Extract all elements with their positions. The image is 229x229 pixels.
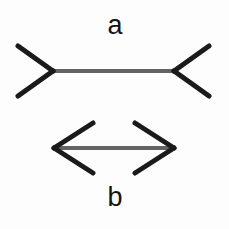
figure-b-fin-right-top xyxy=(135,123,174,148)
figure-a-fin-right-top xyxy=(174,46,209,71)
figure-b-fin-right-bottom xyxy=(135,148,174,173)
muller-lyer-figure: a b xyxy=(0,0,229,229)
figure-a-fin-right-bottom xyxy=(174,71,209,96)
figure-a-fin-left-top xyxy=(18,46,53,71)
figure-b-fin-left-top xyxy=(54,123,93,148)
figure-a-label: a xyxy=(95,12,135,39)
figure-a-fin-left-bottom xyxy=(18,71,53,96)
figure-b-label: b xyxy=(95,184,135,211)
figure-b-fin-left-bottom xyxy=(54,148,93,173)
